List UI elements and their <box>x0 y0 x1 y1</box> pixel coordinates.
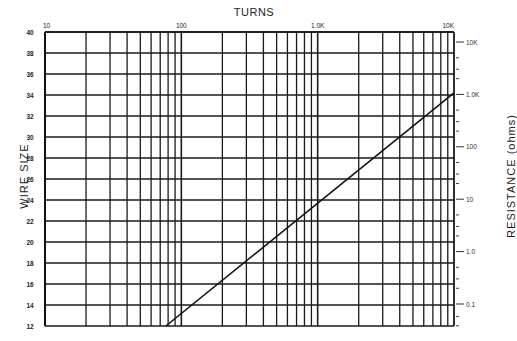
y2-tick-label: 100 <box>466 143 477 150</box>
y2-tick-label: 0.1 <box>466 301 475 308</box>
y2-tick-label: 1.0 <box>466 248 475 255</box>
y-tick-label: 28 <box>26 155 34 162</box>
y-tick-label: 26 <box>26 176 34 183</box>
y-tick-label: 38 <box>26 50 34 57</box>
y-tick-label: 18 <box>26 260 34 267</box>
y-tick-label: 16 <box>26 281 34 288</box>
y-tick-label: 24 <box>26 197 34 204</box>
y-tick-label: 34 <box>26 92 34 99</box>
y-tick-label: 40 <box>26 29 34 36</box>
y2-tick-label: 1.0K <box>466 91 480 98</box>
y-tick-label: 36 <box>26 71 34 78</box>
y-tick-label: 32 <box>26 113 34 120</box>
y-tick-label: 14 <box>26 302 34 309</box>
y2-tick-label: 10K <box>466 39 478 46</box>
y-tick-label: 22 <box>26 218 34 225</box>
y-tick-label: 12 <box>26 323 34 330</box>
y-tick-label: 20 <box>26 239 34 246</box>
x-tick-label: 10 <box>43 22 51 29</box>
x-tick-label: 1.0K <box>311 22 325 29</box>
x-tick-label: 10K <box>442 22 454 29</box>
y-tick-label: 30 <box>26 134 34 141</box>
x-tick-label: 100 <box>176 22 187 29</box>
y2-tick-label: 10 <box>466 196 474 203</box>
data-line <box>166 93 454 326</box>
